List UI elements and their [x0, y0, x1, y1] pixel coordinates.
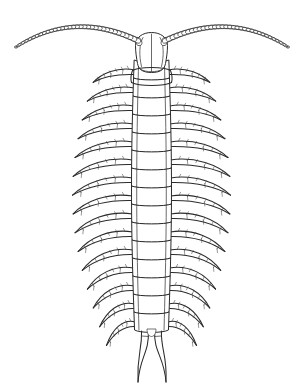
trunk-segment: [132, 204, 172, 224]
trunk-segment: [132, 132, 171, 152]
figure-root: Centipede dorsal habitus line drawing he…: [0, 0, 303, 388]
trunk-segment: [132, 96, 170, 116]
trunk-segment: [132, 168, 172, 188]
terminal-appendage-joint: [142, 336, 149, 337]
trunk-group: [132, 60, 172, 332]
centipede-illustration: [0, 0, 303, 388]
terminal-appendage-joint: [155, 336, 162, 337]
trunk-segment: [132, 240, 171, 260]
trunk-segment: [132, 150, 172, 170]
trunk-segment: [132, 222, 172, 242]
trunk-segment: [132, 114, 171, 134]
trunk-segment: [133, 78, 170, 98]
trunk-segment: [132, 186, 172, 206]
trunk-segment: [132, 258, 170, 278]
